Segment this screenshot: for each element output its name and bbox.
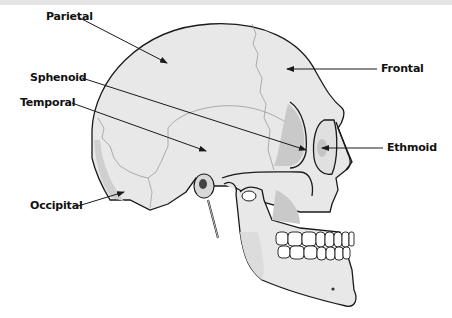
skull-illustration xyxy=(0,0,452,318)
cranium-outline xyxy=(92,24,352,212)
mandibular-notch xyxy=(242,191,256,201)
label-ethmoid: Ethmoid xyxy=(387,141,437,154)
label-temporal: Temporal xyxy=(20,96,75,109)
label-parietal: Parietal xyxy=(46,10,93,23)
label-occipital: Occipital xyxy=(30,199,82,212)
label-frontal: Frontal xyxy=(381,62,424,75)
label-sphenoid: Sphenoid xyxy=(30,71,87,84)
